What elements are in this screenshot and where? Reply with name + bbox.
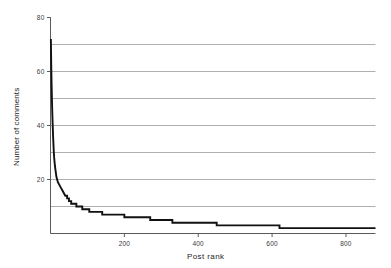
x-axis-tick-label: 200 xyxy=(110,240,138,247)
y-axis-tick-label: 20 xyxy=(0,176,45,183)
y-axis-tick-label: 40 xyxy=(0,122,45,129)
y-axis-title: Number of comments xyxy=(12,87,21,165)
x-axis-title: Post rank xyxy=(187,252,224,261)
x-axis-tick-label: 600 xyxy=(258,240,286,247)
y-axis-tick-label: 80 xyxy=(0,14,45,21)
chart-plot-area xyxy=(0,0,391,268)
x-axis-tick-label: 400 xyxy=(184,240,212,247)
x-axis-tick-label: 800 xyxy=(332,240,360,247)
y-axis-tick-label: 60 xyxy=(0,68,45,75)
chart-figure: 80 60 40 20 200 400 600 800 Number of co… xyxy=(0,0,391,268)
data-series-line xyxy=(51,39,376,228)
